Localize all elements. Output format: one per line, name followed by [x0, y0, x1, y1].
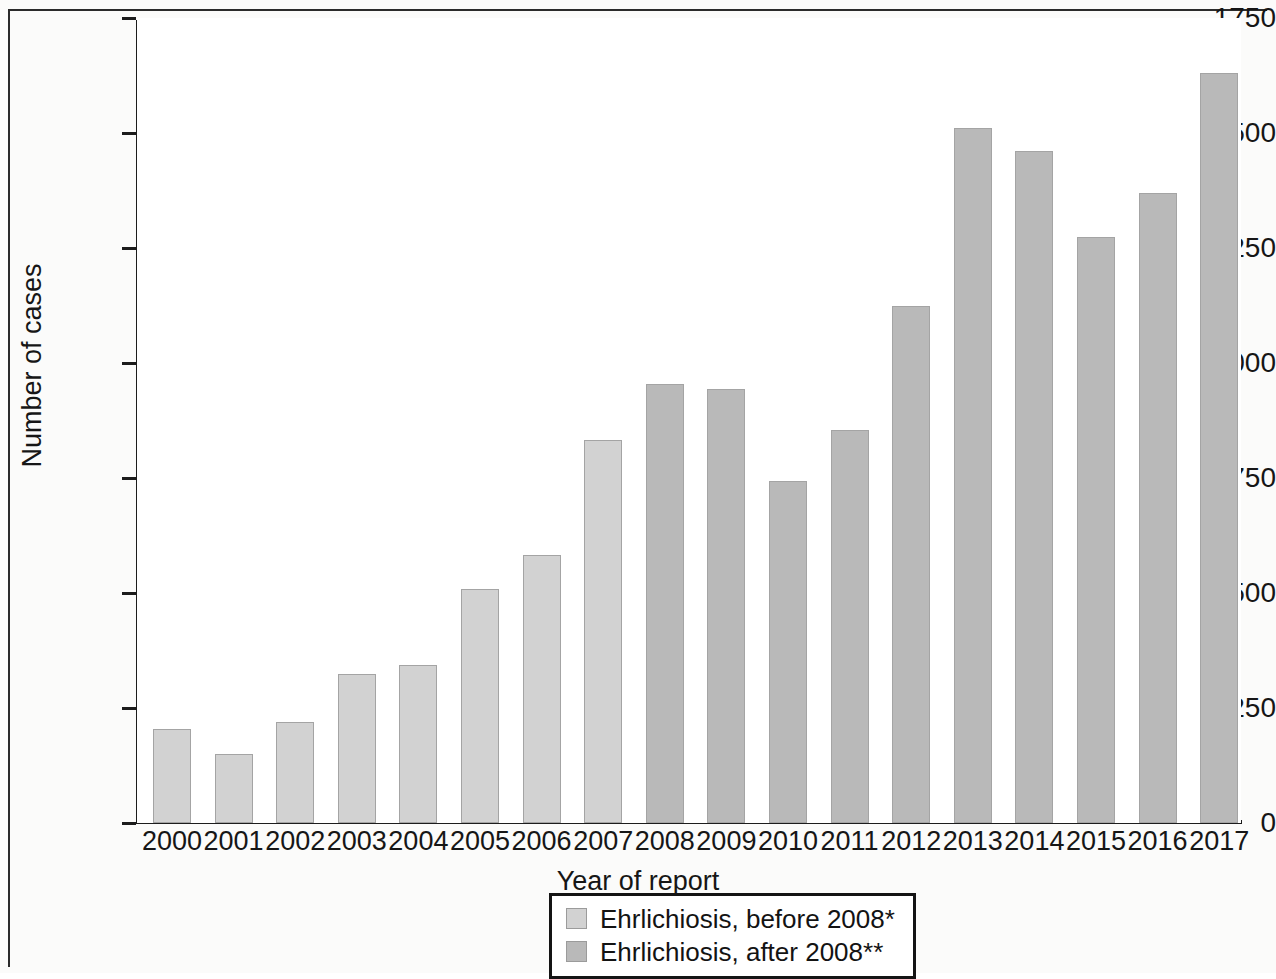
y-axis-tick: [122, 477, 136, 480]
legend-item-label: Ehrlichiosis, after 2008**: [600, 939, 883, 965]
legend-item-label: Ehrlichiosis, before 2008*: [600, 906, 895, 932]
x-axis-tick-label: 2017: [1179, 828, 1259, 855]
chart-legend: Ehrlichiosis, before 2008*Ehrlichiosis, …: [549, 893, 916, 979]
plot-area: [137, 18, 1241, 823]
bar: [153, 729, 191, 823]
bar: [399, 665, 437, 823]
legend-swatch-icon: [566, 908, 587, 929]
legend-item: Ehrlichiosis, after 2008**: [566, 935, 895, 968]
bar: [584, 440, 622, 823]
y-axis-tick: [122, 822, 136, 825]
y-axis-tick: [122, 132, 136, 135]
legend-item: Ehrlichiosis, before 2008*: [566, 902, 895, 935]
y-axis-tick: [122, 592, 136, 595]
y-axis-tick: [122, 17, 136, 20]
bar: [523, 555, 561, 823]
bar: [892, 306, 930, 823]
bar: [461, 589, 499, 823]
bar: [1200, 73, 1238, 823]
bar: [769, 481, 807, 823]
bar: [954, 128, 992, 823]
bar: [1077, 237, 1115, 823]
bar: [707, 389, 745, 823]
bar: [1015, 151, 1053, 823]
y-axis-tick: [122, 707, 136, 710]
y-axis-title: Number of cases: [17, 236, 48, 496]
bar: [1139, 193, 1177, 823]
bar: [276, 722, 314, 823]
bar: [831, 430, 869, 823]
bar: [338, 674, 376, 824]
bar: [215, 754, 253, 823]
bar: [646, 384, 684, 823]
y-axis-tick: [122, 362, 136, 365]
legend-swatch-icon: [566, 941, 587, 962]
y-axis-tick: [122, 247, 136, 250]
